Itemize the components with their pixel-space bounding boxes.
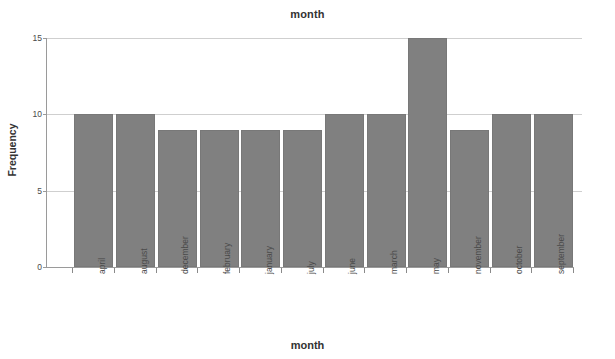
y-tick-label: 5 [37, 186, 42, 196]
bar-slot [157, 38, 199, 267]
bar-january[interactable] [241, 130, 280, 267]
x-category-slot: august [114, 272, 156, 332]
x-category-label: november [473, 236, 483, 274]
y-axis-title: Frequency [2, 0, 22, 359]
x-category-label: july [306, 261, 316, 274]
bar-june[interactable] [325, 114, 364, 267]
chart-title: month [0, 8, 615, 20]
y-tick-label: 0 [37, 262, 42, 272]
bar-slot [449, 38, 491, 267]
y-axis-title-text: Frequency [6, 123, 18, 176]
x-category-slot: january [239, 272, 281, 332]
x-category-slot: may [406, 272, 448, 332]
bar-november[interactable] [450, 130, 489, 267]
x-category-label: september [556, 234, 566, 274]
x-category-slot: july [281, 272, 323, 332]
x-category-label: february [222, 243, 232, 274]
x-category-label: june [347, 258, 357, 274]
x-category-label: march [389, 250, 399, 274]
bar-chart: month Frequency 051015 aprilaugustdecemb… [0, 0, 615, 359]
bar-december[interactable] [158, 130, 197, 267]
plot-area: 051015 [46, 38, 574, 268]
x-category-label: august [139, 248, 149, 274]
bar-slot [282, 38, 324, 267]
x-category-slot: september [531, 272, 573, 332]
x-category-label: december [180, 236, 190, 274]
bar-april[interactable] [74, 114, 113, 267]
bar-slot [532, 38, 574, 267]
bar-slot [115, 38, 157, 267]
x-tick-mark [573, 268, 574, 273]
x-category-label: january [264, 246, 274, 274]
bar-series [47, 38, 574, 267]
x-category-slot: april [72, 272, 114, 332]
x-axis-category-labels: aprilaugustdecemberfebruaryjanuaryjulyju… [46, 272, 573, 332]
bar-march[interactable] [367, 114, 406, 267]
x-category-label: october [514, 246, 524, 274]
bar-february[interactable] [200, 130, 239, 267]
bar-slot [407, 38, 449, 267]
bar-august[interactable] [116, 114, 155, 267]
x-category-slot: june [323, 272, 365, 332]
bar-slot [365, 38, 407, 267]
x-category-slot: december [156, 272, 198, 332]
bar-october[interactable] [492, 114, 531, 267]
x-category-slot: october [490, 272, 532, 332]
x-category-slot: march [364, 272, 406, 332]
y-tick-label: 15 [33, 33, 42, 43]
bar-slot [324, 38, 366, 267]
bar-july[interactable] [283, 130, 322, 267]
y-tick-label: 10 [33, 109, 42, 119]
bar-slot [491, 38, 533, 267]
x-axis-title: month [0, 339, 615, 351]
bar-slot [73, 38, 115, 267]
bar-slot [240, 38, 282, 267]
bar-may[interactable] [408, 38, 447, 267]
x-category-slot: november [448, 272, 490, 332]
x-category-slot: february [197, 272, 239, 332]
x-category-label: april [97, 258, 107, 274]
bar-slot [198, 38, 240, 267]
bar-september[interactable] [534, 114, 573, 267]
x-category-label: may [431, 258, 441, 274]
